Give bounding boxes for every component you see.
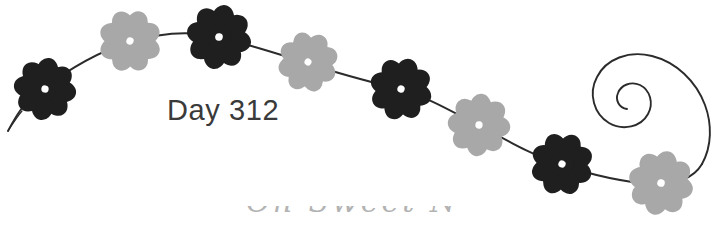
- day-label: Day 312: [167, 96, 279, 125]
- flower-7-dark: [520, 122, 603, 205]
- flower-vine-illustration: Day 312 Oh Sweet Nature: [0, 0, 728, 225]
- flower-8-light: [622, 144, 701, 223]
- flower-2-light: [89, 0, 171, 82]
- flower-5-dark: [362, 50, 441, 129]
- flower-4-light: [267, 21, 349, 103]
- flower-3-dark: [180, 0, 257, 76]
- flower-6-light: [445, 91, 513, 159]
- vine-artwork: [0, 0, 728, 225]
